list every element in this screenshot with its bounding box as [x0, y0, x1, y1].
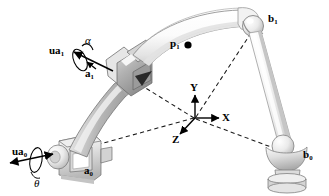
base-right-stub	[101, 147, 112, 163]
label-ua0: ua0	[12, 146, 27, 159]
b0-base-disc-bottom	[268, 183, 306, 193]
base-pivot-hub-inner	[50, 151, 60, 163]
label-b0: b0	[303, 149, 313, 162]
b1-highlight	[246, 18, 253, 24]
reference-frame-axes	[180, 95, 219, 134]
upper-curved-arm	[133, 8, 259, 66]
right-vertical-link	[249, 31, 291, 146]
dashed-origin-to-b0	[196, 119, 279, 150]
figure-canvas: ua1 α a1 p1 b1 ua0 θ a0 b0 X Y Z	[0, 0, 329, 196]
diagram-vector-layer	[0, 0, 329, 196]
ua0-rotation-ellipse	[28, 147, 44, 174]
label-ua1: ua1	[49, 45, 64, 58]
label-axis-y: Y	[190, 82, 198, 93]
p1-point-marker	[184, 41, 191, 48]
label-a0: a0	[84, 165, 93, 178]
dashed-origin-to-b1	[196, 33, 251, 117]
label-alpha: α	[85, 35, 91, 46]
right-link-highlight	[252, 33, 284, 141]
label-b1: b1	[268, 13, 278, 26]
spherical-joint-base-b0	[266, 135, 307, 193]
label-theta: θ	[34, 178, 39, 189]
label-axis-x: X	[222, 112, 230, 123]
label-a1: a1	[85, 68, 94, 81]
label-axis-z: Z	[172, 134, 179, 145]
label-p1: p1	[170, 38, 180, 51]
frame-z-axis	[180, 118, 195, 134]
